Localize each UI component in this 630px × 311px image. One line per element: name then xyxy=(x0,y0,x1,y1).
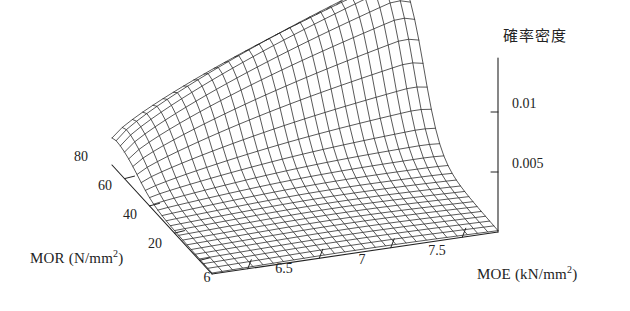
mor-axis-title-main: MOR xyxy=(30,250,65,266)
mor-axis-title: MOR (N/mm2) xyxy=(30,250,123,267)
z-tick-label-0.01: 0.01 xyxy=(512,96,537,112)
mor-tick-label-20: 20 xyxy=(138,236,162,252)
mor-axis-unit-close: ) xyxy=(118,250,123,266)
moe-tick-label-6.5: 6.5 xyxy=(268,261,300,277)
z-axis-title: 確率密度 xyxy=(503,24,567,45)
z-tick-label-0.005: 0.005 xyxy=(512,156,544,172)
moe-axis-title-unit: (kN/mm xyxy=(515,266,567,282)
moe-axis-title-main: MOE xyxy=(477,266,511,282)
mor-tick-label-60: 60 xyxy=(88,178,112,194)
wireframe-mesh xyxy=(112,0,498,273)
moe-tick-label-7: 7 xyxy=(348,252,376,268)
moe-axis-title: MOE (kN/mm2) xyxy=(477,266,577,283)
mor-tick-label-40: 40 xyxy=(113,207,137,223)
mor-tick-label-80: 80 xyxy=(64,149,88,165)
moe-tick-label-7.5: 7.5 xyxy=(421,243,453,259)
moe-axis-unit-close: ) xyxy=(572,266,577,282)
mor-axis-title-unit: (N/mm xyxy=(69,250,113,266)
moe-tick-label-6: 6 xyxy=(193,270,221,286)
probability-density-surface-figure: 確率密度 0.01 0.005 MOR (N/mm2) 80 60 40 20 … xyxy=(0,0,630,311)
